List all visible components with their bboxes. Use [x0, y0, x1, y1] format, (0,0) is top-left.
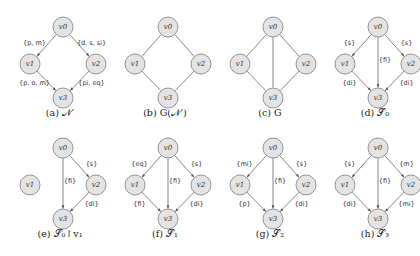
edge-label: {di}: [399, 79, 413, 87]
panel-caption: (c) G: [258, 107, 281, 118]
panel-caption: (g) 𝒮₂: [256, 228, 285, 239]
edge-v0-v2: [280, 34, 299, 56]
node-v0: v0: [263, 17, 283, 37]
node-v0: v0: [158, 17, 178, 37]
edge-v1-v3: [142, 71, 161, 90]
panel-caption: (d) 𝒮₀: [361, 107, 390, 118]
node-label: v2: [92, 60, 101, 68]
node-label: v3: [269, 215, 278, 223]
node-label: v3: [59, 94, 68, 102]
node-v3: v3: [53, 88, 73, 108]
panel-caption: (f) 𝒮₁: [152, 228, 178, 239]
node-label: v0: [374, 23, 383, 31]
node-v2: v2: [191, 175, 211, 195]
edge-label: {fi}: [169, 177, 181, 185]
node-label: v0: [374, 144, 383, 152]
edge-label: {s}: [86, 160, 98, 168]
node-label: v1: [26, 60, 34, 68]
node-label: v3: [59, 215, 68, 223]
node-label: v0: [59, 144, 68, 152]
node-label: v1: [341, 60, 349, 68]
edge-label: {fi}: [133, 200, 145, 208]
panel-g: {mi}{s}{fi}{p}{di}v0v1v2v3(g) 𝒮₂: [230, 138, 316, 239]
edge-label: {fi}: [379, 177, 391, 185]
panel-caption: (a) 𝒩′: [46, 107, 74, 118]
edge-v0-v2: [175, 34, 194, 56]
node-v0: v0: [368, 17, 388, 37]
node-label: v2: [197, 181, 206, 189]
edge-label: {di}: [189, 200, 203, 208]
edge-label: {s}: [344, 39, 356, 47]
edge-label: {di}: [342, 79, 356, 87]
node-label: v2: [302, 181, 311, 189]
edge-v0-v1: [142, 34, 161, 56]
node-v0: v0: [368, 138, 388, 158]
edge-label: {eq}: [131, 160, 147, 168]
edge-label: {s}: [344, 160, 356, 168]
node-label: v0: [59, 23, 68, 31]
node-label: v0: [269, 23, 278, 31]
node-v0: v0: [53, 17, 73, 37]
edge-v2-v3: [175, 71, 194, 90]
node-v3: v3: [263, 209, 283, 229]
panel-c: v0v1v2v3(c) G: [230, 17, 316, 118]
node-v2: v2: [401, 175, 420, 195]
edge-label: {d, s, si}: [77, 39, 106, 47]
node-v1: v1: [20, 175, 40, 195]
edge-v0-v1: [247, 34, 266, 56]
node-label: v3: [269, 94, 278, 102]
panel-d: {s}{s}{fi}{di}{di}v0v1v2v3(d) 𝒮₀: [335, 17, 420, 118]
node-label: v2: [407, 181, 416, 189]
edge-label: {p}: [238, 200, 250, 208]
node-v1: v1: [230, 175, 250, 195]
node-v3: v3: [158, 88, 178, 108]
node-v2: v2: [191, 54, 211, 74]
node-v2: v2: [86, 54, 106, 74]
node-label: v3: [164, 94, 173, 102]
node-v1: v1: [335, 175, 355, 195]
panel-e: {s}{fi}{di}v0v1v2v3(e) 𝒮₀↾v₁: [20, 138, 106, 239]
edge-label: {di}: [342, 200, 356, 208]
node-v3: v3: [158, 209, 178, 229]
panel-caption: (e) 𝒮₀↾v₁: [38, 228, 83, 239]
edge-v1-v3: [247, 71, 266, 90]
edge-label: {s}: [401, 39, 413, 47]
node-label: v2: [197, 60, 206, 68]
edge-label: {di}: [84, 200, 98, 208]
node-label: v1: [341, 181, 349, 189]
edge-label: {mi}: [236, 160, 252, 168]
node-v2: v2: [86, 175, 106, 195]
node-v1: v1: [125, 175, 145, 195]
edge-label: {mi}: [398, 200, 414, 208]
node-label: v2: [92, 181, 101, 189]
node-label: v0: [164, 144, 173, 152]
edge-label: {p, m}: [23, 39, 46, 47]
node-v0: v0: [53, 138, 73, 158]
node-v3: v3: [368, 209, 388, 229]
panel-f: {eq}{s}{fi}{fi}{di}v0v1v2v3(f) 𝒮₁: [125, 138, 211, 239]
node-v2: v2: [296, 54, 316, 74]
node-label: v3: [374, 215, 383, 223]
edge-v2-v3: [280, 71, 299, 90]
panel-h: {s}{m}{fi}{di}{mi}v0v1v2v3(h) 𝒮₃: [335, 138, 420, 239]
edge-label: {fi}: [64, 177, 76, 185]
diagram-canvas: {p, m}{d, s, si}{p, o, m}{pi, eq}v0v1v2v…: [0, 0, 420, 256]
node-v0: v0: [263, 138, 283, 158]
node-label: v1: [26, 181, 34, 189]
edge-label: {s}: [191, 160, 203, 168]
edge-label: {fi}: [274, 177, 286, 185]
node-v3: v3: [53, 209, 73, 229]
node-v0: v0: [158, 138, 178, 158]
edge-label: {s}: [296, 160, 308, 168]
node-label: v0: [164, 23, 173, 31]
node-v2: v2: [401, 54, 420, 74]
node-v3: v3: [368, 88, 388, 108]
node-label: v3: [374, 94, 383, 102]
node-label: v0: [269, 144, 278, 152]
node-v1: v1: [230, 54, 250, 74]
edge-label: {fi}: [379, 56, 391, 64]
edge-label: {pi, eq}: [78, 79, 104, 87]
edge-label: {p, o, m}: [19, 79, 50, 87]
edge-label: {di}: [294, 200, 308, 208]
node-v1: v1: [335, 54, 355, 74]
